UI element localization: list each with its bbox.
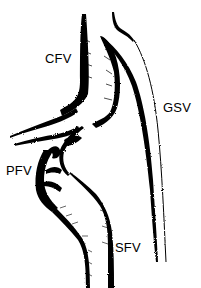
great-saphenous-vein [102,12,166,262]
common-femoral-vein [60,14,120,128]
label-sfv: SFV [115,241,141,255]
vein-illustration [0,0,201,288]
label-pfv: PFV [6,164,32,178]
label-gsv: GSV [163,101,191,115]
vein-diagram: CFV GSV PFV SFV [0,0,201,288]
label-cfv: CFV [45,52,72,66]
sfv-hatching [60,206,108,276]
